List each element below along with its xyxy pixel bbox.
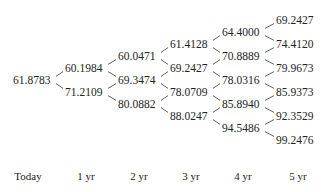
lattice-node: 99.2476	[276, 134, 313, 146]
lattice-node: 79.9673	[276, 62, 313, 74]
lattice-node: 85.9373	[276, 86, 313, 98]
time-label: 5 yr	[289, 170, 306, 182]
time-label: 1 yr	[77, 170, 94, 182]
lattice-node: 60.0471	[118, 50, 155, 62]
lattice-node: 78.0316	[222, 74, 259, 86]
lattice-node: 69.2427	[170, 62, 207, 74]
lattice-node: 60.1984	[65, 62, 102, 74]
time-label: 4 yr	[234, 170, 251, 182]
lattice-node: 74.4120	[276, 38, 313, 50]
time-label: 3 yr	[182, 170, 199, 182]
lattice-node: 85.8940	[222, 98, 259, 110]
lattice-node: 61.4128	[170, 38, 207, 50]
time-label: 2 yr	[130, 170, 147, 182]
lattice-node: 71.2109	[65, 86, 102, 98]
lattice-node: 64.4000	[222, 26, 259, 38]
lattice-node: 78.0709	[170, 86, 207, 98]
lattice-node: 69.3474	[118, 74, 155, 86]
lattice-node: 61.8783	[13, 74, 50, 86]
lattice-node: 92.3529	[276, 110, 313, 122]
lattice-node: 94.5486	[222, 122, 259, 134]
lattice-node: 69.2427	[276, 14, 313, 26]
lattice-node: 80.0882	[118, 98, 155, 110]
lattice-node: 88.0247	[170, 110, 207, 122]
time-label: Today	[14, 170, 41, 182]
lattice-node: 70.8889	[222, 50, 259, 62]
